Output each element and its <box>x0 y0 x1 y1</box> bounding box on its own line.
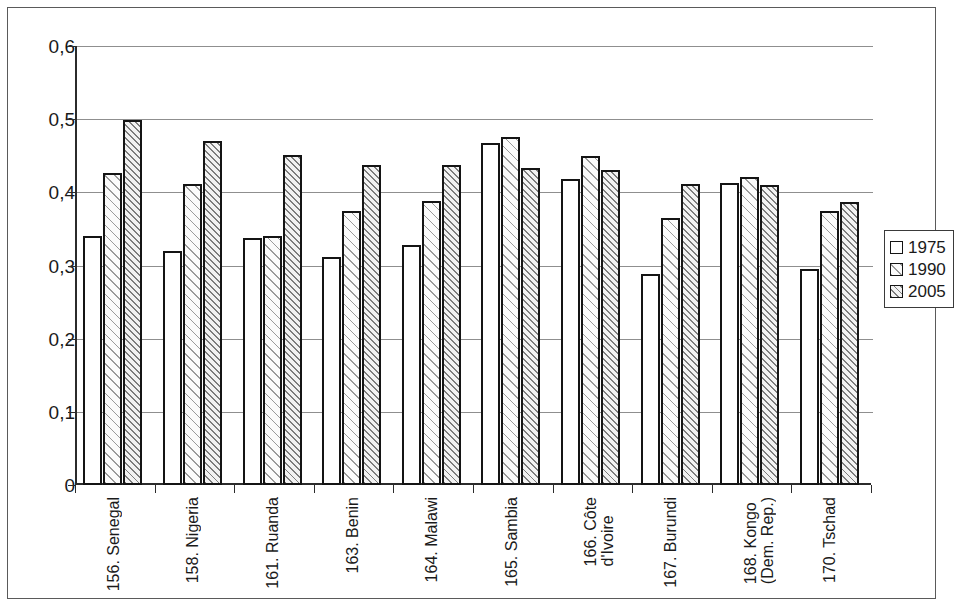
x-tick-mark <box>393 485 394 493</box>
y-tick-mark <box>68 412 75 413</box>
legend-label: 1990 <box>908 261 946 278</box>
legend-item-2005[interactable]: 2005 <box>890 280 946 302</box>
gridline <box>77 412 873 413</box>
legend-label: 2005 <box>908 283 946 300</box>
x-tick-mark <box>314 485 315 493</box>
legend: 197519902005 <box>884 230 954 308</box>
x-tick-mark <box>75 485 76 493</box>
y-tick-mark <box>68 339 75 340</box>
x-tick-mark <box>791 485 792 493</box>
x-tick-label: 166. Côte d'Ivoire <box>582 497 616 566</box>
legend-swatch-icon <box>890 285 903 298</box>
x-tick-label: 158. Nigeria <box>184 497 201 583</box>
gridline <box>77 46 873 47</box>
x-tick-mark <box>553 485 554 493</box>
x-tick-mark <box>155 485 156 493</box>
x-tick-label: 170. Tschad <box>821 497 838 583</box>
x-tick-label: 156. Senegal <box>105 497 122 591</box>
legend-item-1990[interactable]: 1990 <box>890 258 946 280</box>
x-tick-mark <box>632 485 633 493</box>
y-axis: 0,60,50,40,30,20,10 <box>8 46 75 485</box>
x-tick-mark <box>712 485 713 493</box>
gridline <box>77 339 873 340</box>
y-tick-mark <box>68 119 75 120</box>
x-tick-label: 164. Malawi <box>423 497 440 582</box>
gridline <box>77 119 873 120</box>
x-tick-mark <box>871 485 872 493</box>
y-tick-mark <box>68 46 75 47</box>
x-tick-label: 163. Benin <box>344 497 361 574</box>
chart-frame: 0,60,50,40,30,20,10 156. Senegal158. Nig… <box>7 7 936 599</box>
legend-swatch-icon <box>890 263 903 276</box>
plot-area <box>75 46 871 485</box>
x-tick-label: 167. Burundi <box>662 497 679 588</box>
legend-label: 1975 <box>908 239 946 256</box>
y-tick-mark <box>68 192 75 193</box>
legend-swatch-icon <box>890 241 903 254</box>
x-tick-mark <box>473 485 474 493</box>
gridline <box>77 192 873 193</box>
x-axis: 156. Senegal158. Nigeria161. Ruanda163. … <box>75 485 871 610</box>
x-tick-label: 165. Sambia <box>503 497 520 587</box>
legend-item-1975[interactable]: 1975 <box>890 236 946 258</box>
y-tick-mark <box>68 485 75 486</box>
y-tick-mark <box>68 266 75 267</box>
gridline <box>77 266 873 267</box>
x-tick-mark <box>234 485 235 493</box>
x-tick-label: 168. Kongo (Dem. Rep.) <box>742 497 776 584</box>
x-tick-label: 161. Ruanda <box>264 497 281 589</box>
